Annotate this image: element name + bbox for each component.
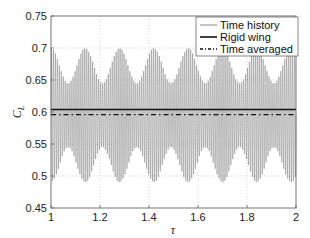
y-tick-label: 0.7	[32, 42, 47, 54]
x-tick-label: 1.6	[190, 211, 205, 223]
y-tick-label: 0.45	[26, 202, 47, 214]
x-tick-label: 1.8	[239, 211, 254, 223]
y-tick-labels: 0.450.50.550.60.650.70.75	[26, 10, 47, 214]
y-tick-label: 0.55	[26, 138, 47, 150]
cl-time-history-chart: 11.21.41.61.82 0.450.50.550.60.650.70.75…	[0, 0, 310, 238]
legend-rigid-wing-label: Rigid wing	[220, 31, 271, 43]
svg-text:CL: CL	[10, 105, 26, 118]
x-tick-labels: 11.21.41.61.82	[48, 211, 299, 223]
x-tick-label: 1	[48, 211, 54, 223]
legend: Time history Rigid wing Time averaged	[196, 17, 298, 56]
y-tick-label: 0.65	[26, 74, 47, 86]
y-tick-label: 0.5	[32, 170, 47, 182]
y-tick-label: 0.6	[32, 106, 47, 118]
x-axis-label: τ	[171, 223, 176, 237]
y-tick-label: 0.75	[26, 10, 47, 22]
legend-time-history-label: Time history	[220, 19, 280, 31]
y-axis-label-sub: L	[17, 105, 26, 111]
x-tick-label: 1.2	[92, 211, 107, 223]
x-tick-label: 2	[293, 211, 299, 223]
y-axis-label: CL	[10, 105, 26, 118]
legend-time-averaged-label: Time averaged	[220, 43, 293, 55]
x-tick-label: 1.4	[141, 211, 156, 223]
